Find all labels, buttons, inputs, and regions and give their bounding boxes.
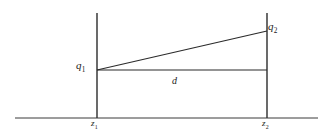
label-charge-right-symbol: q xyxy=(268,20,274,32)
label-charge-right: q2 xyxy=(268,21,277,32)
label-position-right: z2 xyxy=(262,119,268,128)
label-distance: d xyxy=(172,76,177,86)
label-position-left: z1 xyxy=(91,119,97,128)
label-charge-right-subscript: 2 xyxy=(274,27,278,35)
label-position-right-subscript: 2 xyxy=(266,124,269,130)
label-charge-left: q1 xyxy=(76,60,85,71)
label-charge-left-subscript: 1 xyxy=(82,66,86,74)
label-position-left-symbol: z xyxy=(91,118,95,128)
slanted-connector-line xyxy=(97,31,267,70)
diagram-svg xyxy=(0,0,332,131)
label-position-right-symbol: z xyxy=(262,118,266,128)
label-charge-left-symbol: q xyxy=(76,59,82,71)
label-position-left-subscript: 1 xyxy=(95,124,98,130)
label-distance-symbol: d xyxy=(172,75,177,86)
diagram-canvas: q1 q2 d z1 z2 xyxy=(0,0,332,131)
